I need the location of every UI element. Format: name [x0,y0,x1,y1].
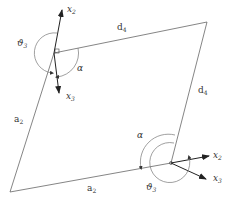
upper-joint: x2 x3 ϑ3 α [17,4,83,102]
upper-x2-label: x2 [67,4,76,15]
top-link-label: d4 [117,22,127,33]
upper-theta-label: ϑ3 [17,38,27,49]
upper-x2-axis-arrow [54,10,62,53]
right-link-label: d4 [198,85,208,96]
upper-alpha-label: α [77,63,83,73]
lower-joint: α x2 x3 ϑ3 [137,130,222,193]
upper-x3-label: x3 [66,91,75,102]
upper-x3-axis-arrow [54,53,59,93]
lower-alpha-label: α [137,130,143,140]
lower-theta-label: ϑ3 [146,182,156,193]
lower-x2-label: x2 [213,150,222,161]
linkage-diagram: x2 x3 ϑ3 α d4 d4 a2 a2 α x2 x3 ϑ3 [0,0,233,204]
link-top-d4 [54,22,207,53]
lower-x3-label: x3 [213,173,222,184]
upper-alpha-arc [57,48,79,77]
left-link-label: a2 [14,114,23,125]
lower-x3-axis-arrow [171,163,206,179]
bottom-link-label: a2 [87,183,96,194]
